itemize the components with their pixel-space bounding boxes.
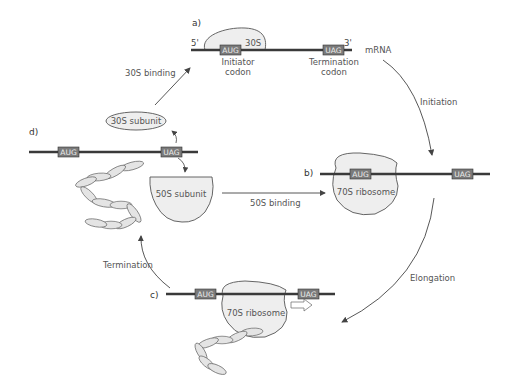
- panel-b-aug-label: AUG: [352, 170, 369, 179]
- arrow-initiation: [383, 60, 432, 155]
- mrna-label: mRNA: [365, 45, 392, 55]
- panel-c-aug-label: AUG: [197, 290, 214, 299]
- panel-b: b) AUG UAG 70S ribosome: [304, 153, 490, 215]
- step-30s-binding: 30S binding: [125, 68, 176, 78]
- termination-codon-caption-1: Termination: [308, 57, 359, 67]
- panel-d: d) 30S subunit AUG UAG 50S subunit: [29, 112, 213, 231]
- panel-c-uag-label: UAG: [300, 290, 316, 299]
- panel-d-uag-label: UAG: [163, 148, 179, 157]
- panel-a-uag-label: UAG: [325, 46, 341, 55]
- panel-d-50s-label: 50S subunit: [156, 189, 207, 199]
- panel-b-uag-label: UAG: [454, 170, 470, 179]
- arrow-elongation: [342, 198, 434, 322]
- released-polypeptide-chain: [74, 159, 144, 231]
- three-prime-label: 3': [344, 38, 352, 48]
- panel-c-letter: c): [150, 290, 158, 300]
- growing-polypeptide-chain: [193, 327, 264, 376]
- panel-d-30s-label: 30S subunit: [111, 116, 162, 126]
- step-50s-binding: 50S binding: [250, 198, 301, 208]
- step-initiation: Initiation: [420, 97, 457, 107]
- panel-a: a) 30S 5' 3' mRNA AUG UAG Initiator codo…: [191, 18, 392, 77]
- termination-codon-caption-2: codon: [321, 67, 347, 77]
- initiator-codon-caption-2: codon: [225, 67, 251, 77]
- step-termination: Termination: [102, 260, 153, 270]
- panel-a-aug-label: AUG: [222, 46, 239, 55]
- panel-d-aug-label: AUG: [60, 148, 77, 157]
- translation-cycle-diagram: a) 30S 5' 3' mRNA AUG UAG Initiator codo…: [0, 0, 516, 387]
- panel-c-ribosome-label: 70S ribosome: [227, 308, 286, 318]
- panel-b-letter: b): [304, 168, 313, 178]
- arrow-release-30s: [172, 131, 177, 143]
- panel-d-letter: d): [29, 127, 38, 137]
- arrow-release-50s: [178, 158, 185, 172]
- five-prime-label: 5': [191, 38, 199, 48]
- panel-d-50s-subunit: [150, 177, 213, 222]
- step-elongation: Elongation: [410, 273, 455, 283]
- panel-a-letter: a): [192, 18, 201, 28]
- initiator-codon-caption-1: Initiator: [221, 57, 255, 67]
- panel-a-30s-label: 30S: [245, 38, 261, 48]
- panel-b-70s-ribosome: [333, 153, 398, 215]
- panel-b-ribosome-label: 70S ribosome: [337, 187, 396, 197]
- movement-direction-arrow-icon: [291, 299, 312, 311]
- panel-c: c) AUG UAG 70S ribosome: [150, 281, 335, 377]
